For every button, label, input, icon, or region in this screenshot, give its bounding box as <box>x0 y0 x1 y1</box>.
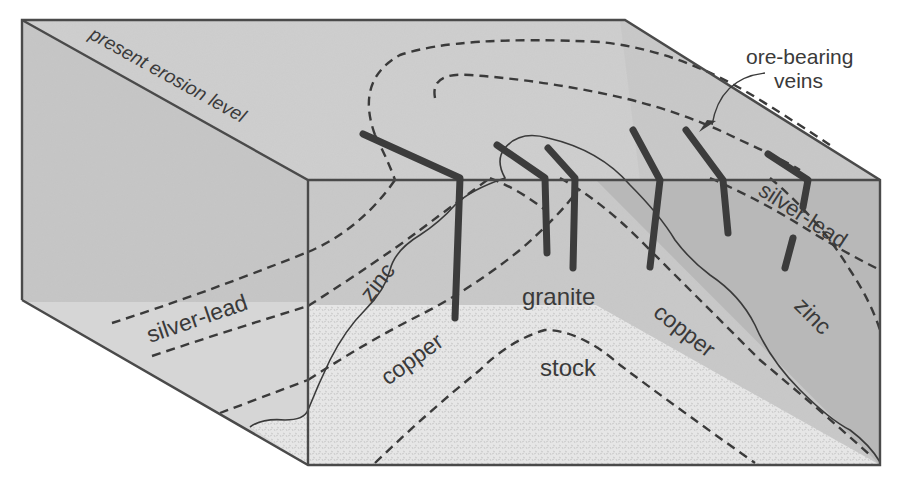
label-stock: stock <box>540 354 597 381</box>
ore-deposit-block-diagram: present erosion level ore-bearing veins … <box>0 0 898 477</box>
label-granite: granite <box>522 283 595 310</box>
label-veins: veins <box>774 69 823 92</box>
label-ore-bearing: ore-bearing <box>746 45 853 68</box>
